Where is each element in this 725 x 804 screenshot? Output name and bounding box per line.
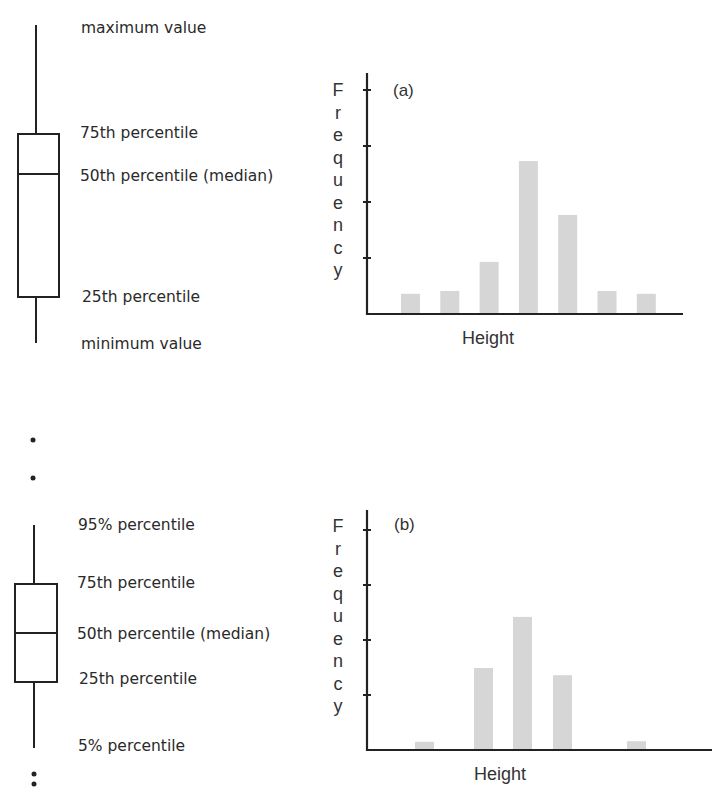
- boxplot-bottom: 95% percentile 75th percentile 50th perc…: [15, 438, 270, 787]
- y-axis-label-letter: n: [333, 215, 343, 235]
- bar-7: [637, 294, 656, 314]
- outlier-point: [32, 782, 37, 787]
- y-axis-label-letter: n: [333, 651, 343, 671]
- label-q1: 25th percentile: [79, 670, 197, 688]
- figure-canvas: maximum value 75th percentile 50th perce…: [0, 0, 725, 804]
- bar-5: [558, 215, 577, 314]
- label-q1: 25th percentile: [82, 288, 200, 306]
- bar-1: [415, 742, 434, 750]
- y-axis-label-letter: y: [334, 696, 343, 716]
- boxplot-top-box: [18, 134, 59, 297]
- y-axis-label-letter: r: [335, 539, 341, 559]
- histogram-b: (b) Frequency Height: [333, 510, 713, 784]
- bar-6: [598, 291, 617, 314]
- panel-label: (b): [394, 515, 415, 534]
- y-axis-label-letter: e: [333, 629, 343, 649]
- y-axis-label-letter: y: [334, 260, 343, 280]
- x-axis-label: Height: [474, 764, 526, 784]
- y-axis-label-letter: e: [333, 193, 343, 213]
- outlier-point: [31, 438, 36, 443]
- y-axis-label-letter: c: [334, 674, 343, 694]
- bar-7: [627, 741, 646, 750]
- outlier-point: [31, 476, 36, 481]
- label-q3: 75th percentile: [80, 124, 198, 142]
- label-upper-whisker: 95% percentile: [78, 516, 195, 534]
- bar-5: [553, 675, 572, 750]
- label-q3: 75th percentile: [77, 574, 195, 592]
- y-axis-label-letter: q: [333, 584, 343, 604]
- y-axis-label: Frequency: [333, 516, 344, 716]
- panel-label: (a): [393, 81, 414, 100]
- label-median: 50th percentile (median): [77, 625, 270, 643]
- y-axis-label: Frequency: [333, 80, 344, 280]
- axes: [363, 510, 712, 751]
- histogram-a: (a) Frequency Height: [333, 73, 684, 348]
- label-lower-whisker: minimum value: [81, 335, 202, 353]
- bar-4: [513, 617, 532, 750]
- y-axis-label-letter: e: [333, 561, 343, 581]
- bars: [415, 617, 646, 750]
- label-upper-whisker: maximum value: [81, 19, 206, 37]
- bar-4: [519, 161, 538, 314]
- bar-1: [401, 294, 420, 314]
- y-axis-label-letter: r: [335, 103, 341, 123]
- outlier-point: [32, 772, 37, 777]
- bars: [401, 161, 656, 314]
- y-axis-label-letter: u: [333, 170, 343, 190]
- label-median: 50th percentile (median): [80, 167, 273, 185]
- label-lower-whisker: 5% percentile: [78, 737, 185, 755]
- y-axis-label-letter: c: [334, 238, 343, 258]
- y-axis-label-letter: q: [333, 148, 343, 168]
- bar-3: [480, 262, 499, 314]
- y-axis-label-letter: u: [333, 606, 343, 626]
- bar-2: [440, 291, 459, 314]
- boxplot-top: maximum value 75th percentile 50th perce…: [18, 19, 273, 353]
- y-axis-label-letter: F: [333, 516, 344, 536]
- bar-3: [474, 668, 493, 750]
- x-axis-label: Height: [462, 328, 514, 348]
- y-axis-label-letter: F: [333, 80, 344, 100]
- y-axis-label-letter: e: [333, 125, 343, 145]
